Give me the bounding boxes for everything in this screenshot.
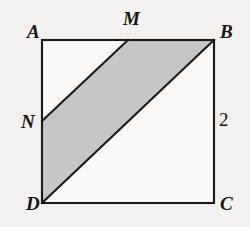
point-label-m: M	[123, 9, 140, 28]
geometry-figure: A B C D M N 2	[0, 0, 250, 227]
side-length-label-bc: 2	[219, 110, 229, 129]
vertex-label-d: D	[26, 194, 40, 213]
vertex-label-b: B	[220, 22, 233, 41]
vertex-label-a: A	[27, 22, 40, 41]
vertex-label-c: C	[220, 194, 233, 213]
point-label-n: N	[21, 112, 35, 131]
